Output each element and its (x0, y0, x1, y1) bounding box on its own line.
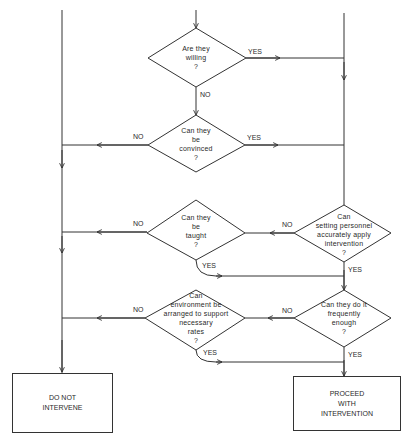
terminal-proceed-with-intervention: PROCEED WITH INTERVENTION (293, 376, 401, 431)
decision-text: be (166, 135, 226, 144)
edge-yes-taught: YES (202, 262, 216, 270)
decision-text: ? (166, 62, 226, 71)
terminal-text: INTERVENTION (321, 409, 373, 419)
decision-convinced: Can they be convinced ? (166, 126, 226, 162)
edge-no-environment: NO (133, 306, 144, 314)
decision-frequently: Can they do it frequently enough ? (309, 300, 379, 336)
edge-no-frequently: NO (282, 307, 293, 315)
decision-text: ? (166, 240, 226, 249)
decision-text: necessary (150, 318, 242, 327)
terminal-text: DO NOT (49, 393, 76, 403)
decision-text: ? (304, 248, 384, 257)
decision-text: ? (150, 336, 242, 345)
terminal-do-not-intervene: DO NOT INTERVENE (12, 373, 113, 433)
decision-text: Can they do it (309, 300, 379, 309)
edge-no-convinced: NO (133, 133, 144, 141)
terminal-text: INTERVENE (43, 403, 83, 413)
decision-text: accurately apply (304, 230, 384, 239)
decision-text: environment be (150, 300, 242, 309)
decision-taught: Can they be taught ? (166, 213, 226, 249)
edge-no-taught: NO (133, 220, 144, 228)
decision-text: Can (150, 291, 242, 300)
decision-text: Can (304, 212, 384, 221)
decision-text: ? (166, 153, 226, 162)
edge-yes-environment: YES (203, 349, 217, 357)
decision-text: Can they (166, 126, 226, 135)
edge-no-accurately: NO (282, 221, 293, 229)
decision-willing: Are they willing ? (166, 44, 226, 71)
decision-accurately: Can setting personnel accurately apply i… (304, 212, 384, 257)
decision-text: frequently (309, 309, 379, 318)
edge-yes-convinced: YES (247, 134, 261, 142)
decision-text: convinced (166, 144, 226, 153)
decision-text: Can they (166, 213, 226, 222)
edge-yes-frequently: YES (348, 351, 362, 359)
decision-text: enough (309, 318, 379, 327)
decision-text: be (166, 222, 226, 231)
decision-text: Are they (166, 44, 226, 53)
decision-text: setting personnel (304, 221, 384, 230)
edge-yes-accurately: YES (348, 266, 362, 274)
decision-text: rates (150, 327, 242, 336)
decision-environment: Can environment be arranged to support n… (150, 291, 242, 345)
terminal-text: WITH (338, 399, 356, 409)
decision-text: taught (166, 231, 226, 240)
decision-text: ? (309, 327, 379, 336)
decision-text: arranged to support (150, 309, 242, 318)
decision-text: willing (166, 53, 226, 62)
edge-yes-willing: YES (248, 48, 262, 56)
terminal-text: PROCEED (330, 389, 365, 399)
decision-text: intervention (304, 239, 384, 248)
edge-no-willing: NO (200, 91, 211, 99)
